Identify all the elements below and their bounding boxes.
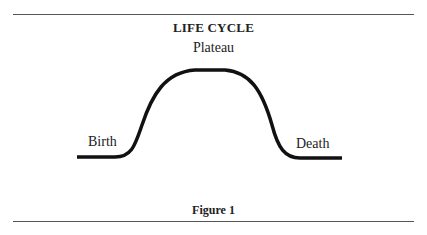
figure-caption: Figure 1: [0, 203, 427, 218]
life-cycle-curve: [0, 0, 427, 235]
bottom-rule: [13, 221, 414, 222]
